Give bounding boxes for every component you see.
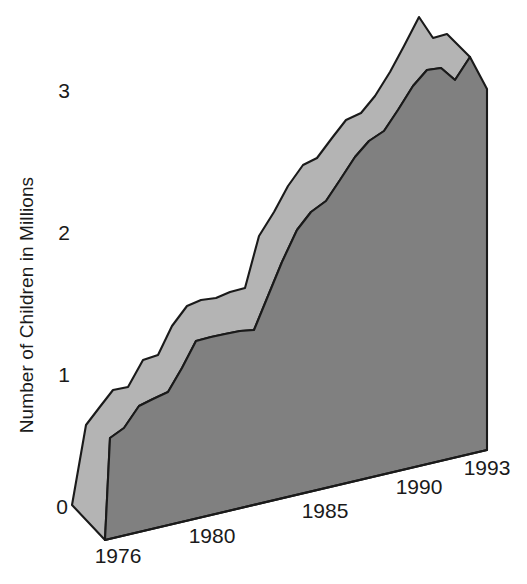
x-tick-label-1993: 1993: [464, 456, 511, 479]
area-chart-svg: 3 2 1 0 Number of Children in Millions 1…: [0, 0, 527, 584]
y-axis-tick-labels: 3 2 1 0: [56, 79, 70, 518]
y-tick-label-2: 2: [58, 221, 70, 244]
y-tick-label-1: 1: [58, 363, 70, 386]
x-tick-label-1990: 1990: [396, 475, 443, 498]
y-tick-label-3: 3: [58, 79, 70, 102]
y-tick-label-0: 0: [56, 495, 68, 518]
y-axis-title: Number of Children in Millions: [16, 177, 37, 433]
series-front-face: [105, 57, 487, 540]
chart-container: 3 2 1 0 Number of Children in Millions 1…: [0, 0, 527, 584]
x-tick-label-1985: 1985: [302, 499, 349, 522]
chart-plot-area: [72, 17, 487, 540]
x-tick-label-1980: 1980: [189, 524, 236, 547]
x-tick-label-1976: 1976: [95, 544, 142, 567]
y-axis-title-text: Number of Children in Millions: [16, 177, 37, 433]
